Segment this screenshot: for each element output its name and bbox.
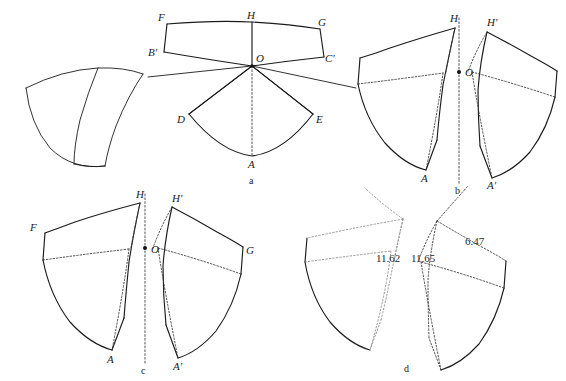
panel-a-label-O: O — [256, 52, 264, 64]
technical-figure-svg: F H G B' O C' D E A a — [0, 0, 566, 381]
panel-c-label-A: A — [106, 353, 114, 365]
panel-a-label-G: G — [318, 16, 326, 28]
panel-a-label-F: F — [157, 11, 165, 23]
panel-d-caption: d — [404, 363, 409, 374]
panel-a-label-Bp: B' — [148, 46, 158, 58]
panel-a-caption: a — [249, 175, 254, 186]
panel-a-point-O — [250, 64, 253, 67]
panel-c-point-O — [143, 246, 147, 250]
panel-b-point-O — [457, 70, 461, 74]
panel-d-dimension-left: 11.62 — [376, 252, 400, 264]
panel-c-label-O: O — [151, 243, 159, 255]
panel-d-dimension-mid: 11.65 — [411, 252, 436, 264]
panel-c-label-G: G — [246, 244, 254, 256]
panel-c-label-F: F — [29, 221, 37, 233]
panel-c-caption: c — [141, 365, 146, 376]
panel-b-caption: b — [455, 185, 460, 196]
panel-b-label-A: A — [420, 172, 428, 184]
panel-b-label-H: H — [449, 12, 459, 24]
panel-b-label-O: O — [465, 66, 473, 78]
panel-b-label-Ap: A' — [486, 179, 497, 191]
panel-c-label-H: H — [135, 188, 145, 200]
figure-container: F H G B' O C' D E A a — [0, 0, 566, 381]
panel-c-label-Ap: A' — [172, 360, 183, 372]
panel-a-label-E: E — [315, 113, 323, 125]
panel-d-dimension-right: 6.47 — [465, 235, 485, 247]
panel-a-label-A: A — [247, 158, 255, 170]
panel-a-label-H: H — [246, 9, 256, 21]
panel-b-label-Hp: H' — [486, 16, 498, 28]
panel-a-label-Cp: C' — [325, 52, 335, 64]
figure-background — [0, 0, 566, 381]
panel-c-label-Hp: H' — [171, 192, 183, 204]
panel-a-label-D: D — [176, 113, 185, 125]
